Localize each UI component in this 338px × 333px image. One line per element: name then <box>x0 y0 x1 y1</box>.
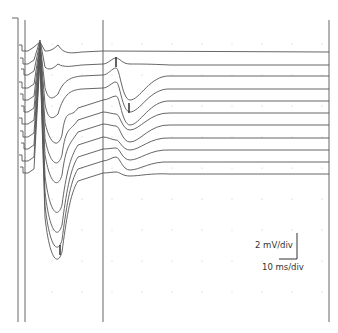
scale-bar-horizontal-label: 10 ms/div <box>262 262 304 272</box>
cursor-lines <box>12 18 329 322</box>
traces <box>19 40 329 259</box>
scale-bar-vertical-label: 2 mV/div <box>255 240 293 250</box>
waveform-plot <box>0 0 338 333</box>
grid-dots <box>51 43 322 292</box>
